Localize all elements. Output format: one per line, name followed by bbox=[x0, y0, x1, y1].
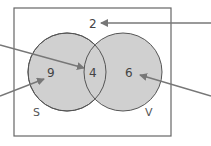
intersection-count: 4 bbox=[89, 66, 97, 80]
set-v-label: V bbox=[145, 106, 153, 119]
set-s-label: S bbox=[33, 106, 40, 119]
set-v-only-count: 6 bbox=[125, 66, 133, 80]
universe-count: 2 bbox=[89, 17, 97, 31]
venn-diagram: 2 9 4 6 S V bbox=[0, 0, 211, 146]
set-s-only-count: 9 bbox=[47, 66, 55, 80]
